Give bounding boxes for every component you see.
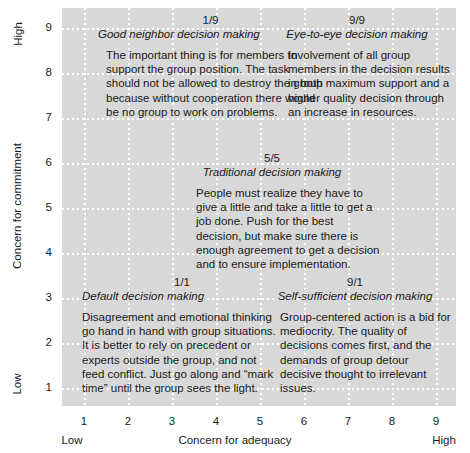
y-tick-9: 9 [38,21,52,33]
x-tick-1: 1 [74,415,94,427]
plot-area: 1/9 Good neighbor decision making The im… [62,8,456,406]
x-tick-5: 5 [250,415,270,427]
y-tick-3: 3 [38,291,52,303]
grid-cell-5-5-title: Traditional decision making [162,165,382,179]
y-tick-7: 7 [38,111,52,123]
x-tick-7: 7 [338,415,358,427]
grid-cell-5-5-code: 5/5 [162,152,382,165]
x-tick-4: 4 [206,415,226,427]
grid-cell-9-9-body: Involvement of all group members in the … [262,48,452,119]
x-tick-8: 8 [382,415,402,427]
x-axis-low-label: Low [52,434,92,446]
y-tick-2: 2 [38,336,52,348]
y-tick-5: 5 [38,201,52,213]
y-tick-6: 6 [38,156,52,168]
grid-cell-9-9: 9/9 Eye-to-eye decision making Involveme… [262,14,452,119]
y-axis-low-label: Low [11,364,23,404]
decision-making-grid-figure: 1/9 Good neighbor decision making The im… [0,0,470,453]
grid-cell-9-1-body: Group-centered action is a bid for medio… [258,310,452,395]
grid-cell-5-5: 5/5 Traditional decision making People m… [162,152,382,271]
x-axis-high-label: High [424,434,464,446]
grid-cell-9-9-code: 9/9 [262,14,452,27]
y-tick-8: 8 [38,66,52,78]
grid-cell-1-1-code: 1/1 [82,276,282,289]
grid-cell-9-1-code: 9/1 [258,276,452,289]
x-tick-2: 2 [118,415,138,427]
grid-cell-9-9-title: Eye-to-eye decision making [262,27,452,41]
x-tick-9: 9 [426,415,446,427]
grid-cell-1-1-body: Disagreement and emotional thinking go h… [82,310,282,395]
grid-cell-1-1-title: Default decision making [82,289,282,303]
grid-cell-9-1-title: Self-sufficient decision making [258,289,452,303]
y-tick-1: 1 [38,381,52,393]
x-tick-3: 3 [162,415,182,427]
grid-cell-9-1: 9/1 Self-sufficient decision making Grou… [258,276,452,395]
grid-cell-1-1: 1/1 Default decision making Disagreement… [82,276,282,395]
y-axis-title: Concern for commitment [11,116,23,296]
x-tick-6: 6 [294,415,314,427]
grid-cell-5-5-body: People must realize they have to give a … [162,186,382,271]
y-axis-high-label: High [12,14,24,54]
y-tick-4: 4 [38,246,52,258]
